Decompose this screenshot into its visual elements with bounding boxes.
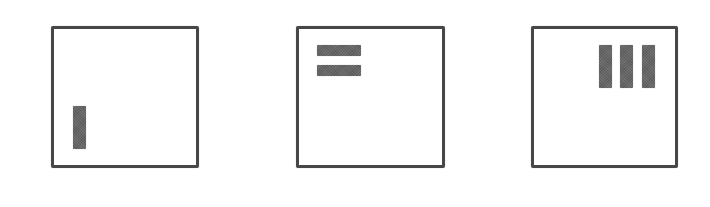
panel-3-vertical-block-2 (620, 45, 633, 88)
panel-3-vertical-block-3 (642, 45, 655, 88)
panel-1-vertical-block-1 (73, 106, 86, 149)
panel-3-vertical-block-1 (599, 45, 612, 88)
panel-2-horizontal-block-1 (317, 45, 361, 56)
panel-2-horizontal-block-2 (317, 65, 361, 76)
